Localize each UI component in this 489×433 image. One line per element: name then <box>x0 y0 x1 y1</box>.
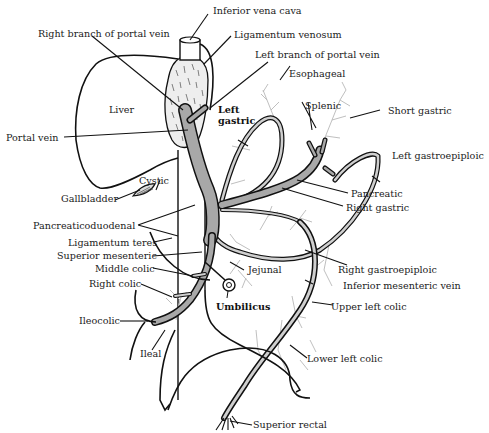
label-liver: Liver <box>109 104 135 115</box>
portal-venous-system-diagram: Inferior vena cava Ligamentum venosum Ri… <box>0 0 489 433</box>
label-middle-colic: Middle colic <box>95 263 155 274</box>
label-left-branch-portal-vein: Left branch of portal vein <box>255 49 380 60</box>
label-right-gastroepiploic: Right gastroepiploic <box>338 264 437 275</box>
label-esophageal: Esophageal <box>289 68 345 79</box>
label-gallbladder: Gallbladder <box>61 193 118 204</box>
inferior-mesenteric-vein <box>216 222 315 430</box>
umbilicus-icon <box>223 279 235 298</box>
label-right-gastric: Right gastric <box>346 202 409 213</box>
label-lower-left-colic: Lower left colic <box>307 353 383 364</box>
label-superior-rectal: Superior rectal <box>253 419 327 430</box>
label-ileal: Ileal <box>140 348 161 359</box>
label-pancreatic: Pancreatic <box>351 188 403 199</box>
label-upper-left-colic: Upper left colic <box>331 301 407 312</box>
label-ligamentum-teres: Ligamentum teres <box>68 237 157 248</box>
label-left-gastric-line1: Left <box>218 104 240 115</box>
label-cystic: Cystic <box>139 175 169 186</box>
label-inferior-mesenteric-vein: Inferior mesenteric vein <box>343 280 461 291</box>
label-ileocolic: Ileocolic <box>79 315 120 326</box>
label-splenic: Splenic <box>305 100 341 111</box>
label-inferior-vena-cava: Inferior vena cava <box>213 5 302 16</box>
label-short-gastric: Short gastric <box>388 105 452 116</box>
label-portal-vein: Portal vein <box>6 132 58 143</box>
label-ligamentum-venosum: Ligamentum venosum <box>234 29 342 40</box>
label-right-branch-portal-vein: Right branch of portal vein <box>38 28 170 39</box>
label-umbilicus: Umbilicus <box>216 301 270 312</box>
label-right-colic: Right colic <box>89 278 141 289</box>
label-pancreaticoduodenal: Pancreaticoduodenal <box>33 220 135 231</box>
label-left-gastric-line2: gastric <box>218 115 255 126</box>
liver-outline <box>76 55 178 188</box>
label-superior-mesenteric: Superior mesenteric <box>57 250 157 261</box>
label-left-gastroepiploic: Left gastroepiploic <box>392 150 484 161</box>
label-jejunal: Jejunal <box>247 264 282 275</box>
